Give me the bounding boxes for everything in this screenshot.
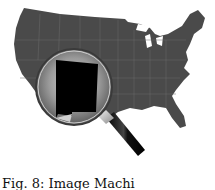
magnifying-glass [36,49,112,125]
figure-caption: Fig. 8: Image Machi [2,176,135,190]
new-mexico-highlight [56,60,98,118]
magnifier-handle [98,110,145,156]
map-figure: Fig. 8: Image Machi [0,0,215,190]
us-map-illustration [0,0,215,175]
